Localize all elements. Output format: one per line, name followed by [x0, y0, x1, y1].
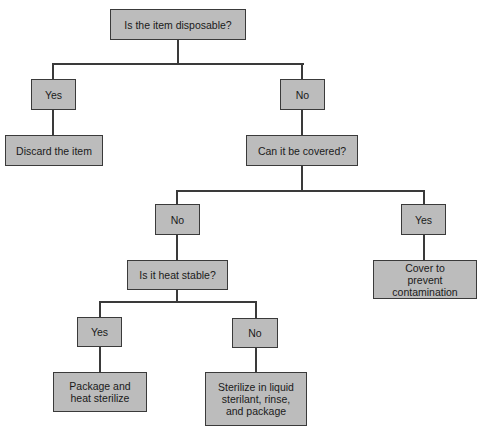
question-heat-stable: Is it heat stable?	[127, 260, 228, 290]
connector	[255, 347, 257, 373]
connector	[423, 190, 425, 205]
connector	[176, 190, 178, 205]
result-cover: Cover to prevent contamination	[373, 260, 477, 299]
connector	[176, 190, 425, 192]
connector	[301, 110, 303, 136]
result-liquid-sterilize: Sterilize in liquid sterilant, rinse, an…	[205, 372, 307, 426]
answer-covered-yes: Yes	[401, 204, 446, 235]
answer-disposable-no: No	[280, 79, 325, 110]
connector	[52, 63, 54, 80]
connector	[99, 301, 101, 318]
answer-heat-yes: Yes	[77, 317, 122, 347]
question-disposable: Is the item disposable?	[110, 9, 246, 40]
connector	[99, 346, 101, 373]
result-discard: Discard the item	[5, 135, 103, 166]
connector	[99, 301, 257, 303]
connector	[423, 234, 425, 261]
connector	[52, 63, 304, 65]
connector	[255, 301, 257, 318]
answer-disposable-yes: Yes	[31, 79, 76, 110]
answer-heat-no: No	[232, 318, 278, 348]
answer-covered-no: No	[155, 204, 200, 235]
result-heat-sterilize: Package and heat sterilize	[53, 372, 147, 412]
connector	[177, 40, 179, 65]
connector	[301, 165, 303, 192]
question-covered: Can it be covered?	[246, 135, 358, 166]
connector	[301, 63, 303, 80]
connector	[176, 234, 178, 261]
connector	[52, 110, 54, 136]
